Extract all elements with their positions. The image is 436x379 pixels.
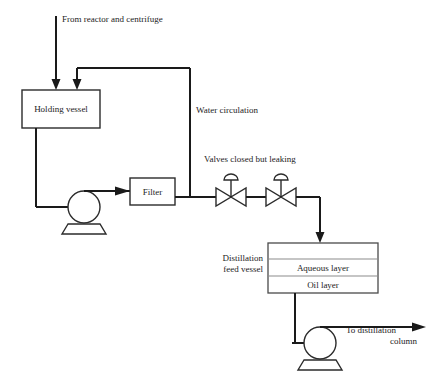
process-flow-diagram: From reactor and centrifuge Water circul…	[0, 0, 436, 379]
feed-vessel-label-line1: Distillation	[223, 253, 264, 263]
pfd-canvas: From reactor and centrifuge Water circul…	[0, 0, 436, 379]
arrow-down-icon	[52, 79, 61, 90]
discharge-pump	[298, 327, 342, 370]
filter-label: Filter	[143, 187, 163, 197]
feed-vessel-inlet-line	[296, 197, 325, 243]
to-column-label-line2: column	[390, 336, 417, 346]
feed-vessel-label-line2: feed vessel	[223, 264, 263, 274]
circulation-pump	[62, 187, 130, 235]
to-column-label-line1: To distillation	[346, 325, 397, 335]
valve-first[interactable]	[216, 174, 246, 206]
oil-layer-label: Oil layer	[307, 280, 339, 290]
arrow-down-icon	[316, 232, 325, 243]
valve-second[interactable]	[266, 174, 296, 206]
arrow-right-icon	[115, 187, 130, 196]
aqueous-layer-label: Aqueous layer	[297, 263, 349, 273]
arrow-down-icon	[73, 79, 82, 90]
valves-note-label: Valves closed but leaking	[204, 154, 296, 164]
arrow-right-icon	[412, 323, 426, 332]
feed-stream-line	[52, 16, 61, 90]
holding-vessel-label: Holding vessel	[34, 104, 88, 114]
feed-stream-label: From reactor and centrifuge	[62, 14, 163, 24]
water-circulation-label: Water circulation	[196, 105, 258, 115]
